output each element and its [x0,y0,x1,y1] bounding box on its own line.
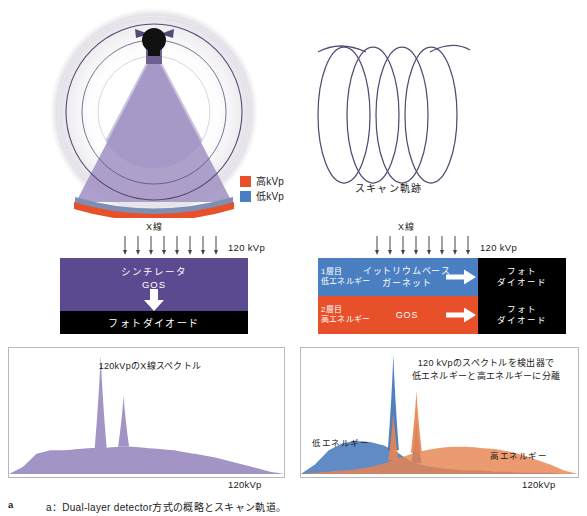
photodiode-layer-1: フォト ダイオード [478,258,566,296]
xray-arrow-row-single [118,236,222,256]
kvp-label-single: 120 kVp [228,242,265,253]
legend-item-high-kvp: 高kVp [240,176,320,187]
xray-arrow [144,236,157,256]
xray-arrow [370,236,383,256]
legend-item-low-kvp: 低kVp [240,191,320,202]
photodiode-1-line1: フォト [507,266,537,276]
legend-label-high-kvp: 高kVp [256,176,284,187]
xray-arrow [409,236,422,256]
layer-1-material-line1: イットリウムベース [363,266,451,276]
photodiode-layer: フォトダイオード [60,311,248,334]
scintillator-layer-gos: シンチレータ GOS [60,258,248,311]
dual-spectrum-title-line1: 120 kVpのスペクトルを検出器で [396,357,576,370]
xray-arrow [183,236,196,256]
spectrum-area-0 [9,447,284,474]
dual-layer-detector: 1層目 低エネルギー イットリウムベース ガーネット フォト ダイオード [318,258,566,334]
layer-2-energy: 高エネルギー [321,315,370,324]
low-energy-curve-label: 低エネルギー [312,436,370,448]
dual-spectrum-title-line2: 低エネルギーと高エネルギーに分離 [396,370,576,383]
scintillator-yttrium-garnet: 1層目 低エネルギー イットリウムベース ガーネット [318,258,478,296]
scintillator-label: シンチレータ [121,265,187,278]
layer-2-number: 2層目 [321,305,342,314]
high-energy-curve-label: 高エネルギー [490,449,548,461]
xray-arrow-row-dual [370,236,474,256]
panel-marker: a [8,499,13,510]
layer-1-material: イットリウムベース ガーネット [363,265,451,289]
light-transfer-arrow-icon [446,308,476,323]
photodiode-label: フォトダイオード [108,315,199,330]
figure-caption: a：Dual-layer detector方式の概略とスキャン軌道。 [46,499,286,514]
layer-2-material-line1: GOS [396,310,418,320]
photodiode-label-1: フォト ダイオード [497,266,548,288]
kvp-label-dual: 120 kVp [480,242,517,253]
xray-arrow [131,236,144,256]
helix-loops [318,47,457,183]
xray-label-dual: X線 [398,220,414,233]
single-spectrum-axis-max: 120kVp [228,479,261,490]
detector-layer-2-high-energy: 2層目 高エネルギー GOS フォト ダイオード [318,296,566,334]
xray-arrow [118,236,131,256]
layer-1-energy: 低エネルギー [321,277,370,286]
figure-root: 高kVp 低kVp スキャン軌跡 X線 120 kVp [0,0,587,516]
photodiode-1-line2: ダイオード [497,277,548,287]
spectrum-curve-single [9,355,284,474]
layer-1-tag: 1層目 低エネルギー [321,267,370,287]
xray-arrow [435,236,448,256]
kvp-legend: 高kVp 低kVp [240,176,320,206]
layer-1-number: 1層目 [321,267,342,276]
xray-arrow [461,236,474,256]
characteristic-peak-1-1 [411,391,422,453]
layer-2-material: GOS [396,309,418,321]
characteristic-peak-0-1 [118,396,129,447]
light-output-arrow-icon [141,289,167,311]
legend-swatch-high-kvp [240,176,251,187]
photodiode-2-line2: ダイオード [497,315,548,325]
layer-2-tag: 2層目 高エネルギー [321,305,370,325]
xray-arrow [209,236,222,256]
photodiode-label-2: フォト ダイオード [497,304,548,326]
xray-arrow [170,236,183,256]
photodiode-layer-2: フォト ダイオード [478,296,566,334]
xray-arrow [396,236,409,256]
xray-arrow [196,236,209,256]
single-layer-detector: シンチレータ GOS フォトダイオード [60,258,248,334]
xray-incidence-single: X線 120 kVp [118,220,258,260]
legend-swatch-low-kvp [240,191,251,202]
legend-label-low-kvp: 低kVp [256,191,284,202]
scintillator-gos: 2層目 高エネルギー GOS [318,296,478,334]
detector-layer-1-low-energy: 1層目 低エネルギー イットリウムベース ガーネット フォト ダイオード [318,258,566,296]
xray-incidence-dual: X線 120 kVp [370,220,510,260]
xray-label-single: X線 [146,220,162,233]
scan-trajectory-label: スキャン軌跡 [355,180,422,195]
scan-trajectory-diagram [310,30,490,200]
dual-spectrum-axis-max: 120kVp [522,479,555,490]
single-spectrum-title: 120kVpのX線スペクトル [60,360,240,373]
xray-arrow [157,236,170,256]
layer-1-material-line2: ガーネット [382,278,431,288]
helix-lead-out [430,45,470,52]
light-transfer-arrow-icon [446,270,476,285]
xray-arrow [383,236,396,256]
photodiode-2-line1: フォト [507,304,537,314]
xray-arrow [422,236,435,256]
xray-arrow [448,236,461,256]
